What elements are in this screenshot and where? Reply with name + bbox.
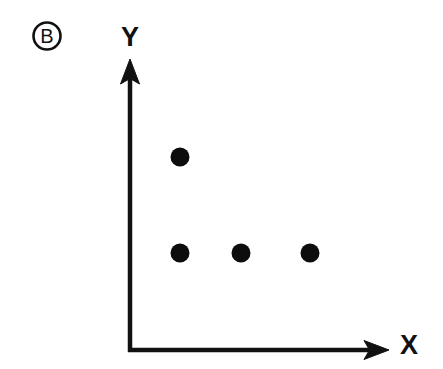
panel-letter-label: B: [40, 25, 53, 47]
y-axis-label: Y: [121, 22, 139, 52]
data-point-group: [171, 148, 320, 263]
data-point: [171, 244, 190, 263]
figure-panel-b: B Y X: [0, 0, 443, 369]
data-point: [171, 148, 190, 167]
data-point: [301, 244, 320, 263]
x-axis: [128, 341, 389, 360]
y-axis: [121, 59, 140, 352]
panel-letter-badge: B: [34, 23, 61, 50]
data-point: [232, 244, 251, 263]
x-axis-label: X: [400, 330, 418, 360]
scatter-plot-svg: B Y X: [0, 0, 443, 369]
